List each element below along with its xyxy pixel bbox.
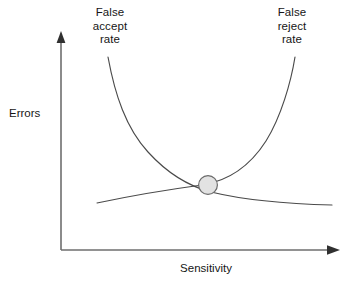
false-accept-rate-label-line3: rate bbox=[74, 33, 146, 47]
false-accept-rate-label-line2: accept bbox=[74, 20, 146, 34]
false-reject-rate-label-line2: reject bbox=[256, 20, 328, 34]
false-accept-rate-label: False accept rate bbox=[74, 6, 146, 47]
x-axis-label: Sensitivity bbox=[163, 261, 249, 275]
false-reject-rate-label-line1: False bbox=[256, 6, 328, 20]
false-reject-rate-label-line3: rate bbox=[256, 33, 328, 47]
equal-error-rate-marker bbox=[199, 176, 218, 195]
false-reject-rate-curve bbox=[97, 57, 295, 203]
y-axis-arrowhead bbox=[57, 31, 66, 43]
false-accept-rate-curve bbox=[108, 57, 332, 205]
x-axis-arrowhead bbox=[327, 245, 340, 255]
errors-vs-sensitivity-figure: False accept rate False reject rate Erro… bbox=[0, 0, 350, 292]
false-reject-rate-label: False reject rate bbox=[256, 6, 328, 47]
y-axis-label: Errors bbox=[9, 106, 40, 120]
false-accept-rate-label-line1: False bbox=[74, 6, 146, 20]
